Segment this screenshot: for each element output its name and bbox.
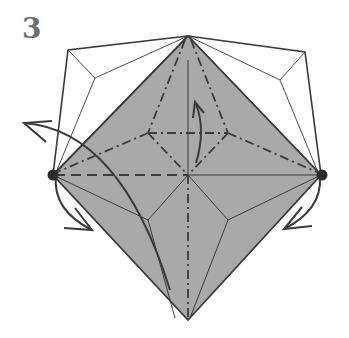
pivot-dot-left	[48, 170, 59, 181]
pivot-dot-right	[317, 170, 328, 181]
origami-diagram	[0, 0, 349, 338]
